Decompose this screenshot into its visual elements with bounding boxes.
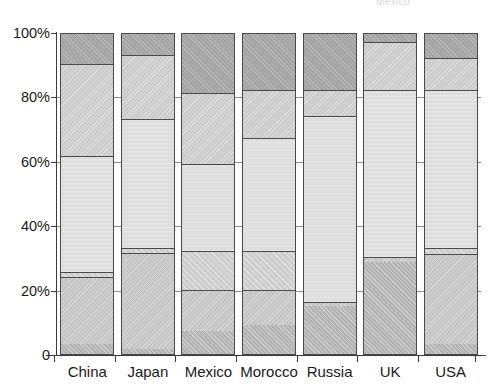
bar-segment — [242, 325, 296, 354]
x-axis-line — [46, 355, 486, 356]
x-axis-label-usa: USA — [435, 364, 466, 379]
bar-japan[interactable] — [121, 33, 175, 355]
bar-segment — [242, 90, 296, 138]
bar-segment — [121, 253, 175, 350]
x-axis-tick-mark — [236, 356, 237, 362]
x-axis-tick-mark — [297, 356, 298, 362]
bar-segment — [181, 93, 235, 164]
x-axis-tick-mark-end — [475, 356, 476, 362]
bar-segment — [242, 33, 296, 90]
y-axis-tick-label: 100% — [13, 26, 50, 41]
bar-segment — [424, 33, 478, 58]
y-axis-labels: 020%40%60%80%100% — [0, 0, 50, 388]
bar-segment — [303, 116, 357, 303]
x-axis-tick-mark — [54, 356, 55, 362]
bar-uk[interactable] — [363, 33, 417, 355]
bar-segment — [121, 33, 175, 55]
bar-segment — [242, 290, 296, 325]
bar-segment — [181, 251, 235, 290]
bar-segment — [181, 290, 235, 332]
y-axis-tick-label: 60% — [21, 155, 50, 170]
x-axis-label-uk: UK — [380, 364, 401, 379]
x-axis-label-russia: Russia — [307, 364, 353, 379]
bar-segment — [181, 164, 235, 251]
bar-mexico[interactable] — [181, 33, 235, 355]
bar-segment — [303, 90, 357, 116]
bar-segment — [121, 55, 175, 119]
bar-segment — [121, 119, 175, 248]
bar-segment — [424, 58, 478, 90]
x-axis-tick-mark — [418, 356, 419, 362]
y-axis-tick-mark — [51, 226, 57, 227]
x-axis-label-japan: Japan — [127, 364, 168, 379]
bar-segment — [424, 344, 478, 354]
bar-segment — [424, 254, 478, 344]
bar-china[interactable] — [60, 33, 114, 355]
y-axis-tick-mark — [51, 162, 57, 163]
x-axis-label-mexico: Mexico — [185, 364, 233, 379]
bar-segment — [60, 33, 114, 64]
bar-russia[interactable] — [303, 33, 357, 355]
chart-title: Mexico — [333, 0, 453, 10]
bar-segment — [60, 156, 114, 272]
bar-usa[interactable] — [424, 33, 478, 355]
bar-segment — [363, 90, 417, 257]
y-axis-tick-label: 20% — [21, 283, 50, 298]
bar-segment — [363, 33, 417, 42]
bar-segment — [121, 248, 175, 253]
x-axis-tick-mark — [115, 356, 116, 362]
bar-segment — [242, 251, 296, 290]
x-axis-label-china: China — [68, 364, 107, 379]
x-axis-tick-mark — [175, 356, 176, 362]
bar-segment — [303, 306, 357, 354]
bar-segment — [303, 33, 357, 90]
bar-segment — [121, 349, 175, 354]
bar-segment — [181, 331, 235, 354]
bar-segment — [181, 33, 235, 93]
bar-segment — [303, 302, 357, 305]
bar-segment — [60, 344, 114, 354]
bar-segment — [363, 262, 417, 354]
y-axis-tick-mark — [51, 97, 57, 98]
x-axis-tick-mark — [357, 356, 358, 362]
bar-segment — [60, 277, 114, 345]
bar-segment — [424, 90, 478, 248]
plot-area — [57, 33, 481, 355]
bar-segment — [242, 138, 296, 251]
y-axis-tick-mark — [51, 33, 57, 34]
bar-segment — [424, 248, 478, 254]
stacked-bar-chart: Mexico 020%40%60%80%100% ChinaJapanMexic… — [0, 0, 490, 388]
bar-morocco[interactable] — [242, 33, 296, 355]
bar-segment — [60, 64, 114, 156]
y-axis-tick-label: 40% — [21, 219, 50, 234]
y-axis-tick-mark — [51, 291, 57, 292]
bar-segment — [60, 272, 114, 277]
x-axis-label-morocco: Morocco — [240, 364, 298, 379]
bar-segment — [363, 42, 417, 90]
y-axis-tick-label: 80% — [21, 90, 50, 105]
bar-segment — [363, 257, 417, 262]
